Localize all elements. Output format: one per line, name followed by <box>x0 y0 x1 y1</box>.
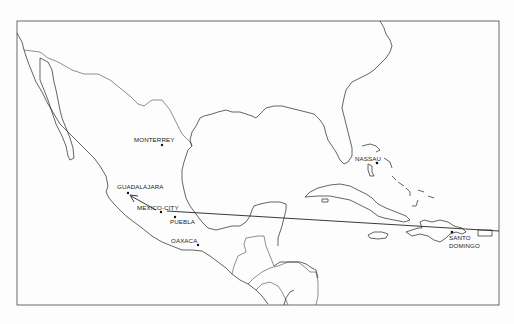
central-america-borders <box>232 236 318 305</box>
route-santo-domingo-mexico-city <box>167 211 499 231</box>
label-mexico-city: MEXICO-CITY <box>137 204 179 211</box>
map-frame <box>17 21 499 305</box>
bahamas-7 <box>428 196 434 198</box>
label-nassau: NASSAU <box>355 155 381 162</box>
label-puebla: PUEBLA <box>170 218 196 225</box>
label-guadalajara: GUADALAJARA <box>117 183 164 190</box>
city-markers <box>127 144 454 246</box>
label-monterrey: MONTERREY <box>134 136 174 143</box>
coastlines <box>17 21 392 305</box>
isle-of-youth <box>322 199 328 202</box>
dot-monterrey <box>161 144 163 146</box>
honduras-coast <box>274 262 318 278</box>
label-santo: SANTO <box>449 234 471 241</box>
gulf-coast-mexico <box>182 146 286 246</box>
gulf-coast-north <box>190 21 392 164</box>
dot-mexico-city <box>160 211 162 213</box>
dot-nassau <box>376 162 379 165</box>
city-labels: MONTERREY NASSAU GUADALAJARA MEXICO-CITY… <box>117 136 480 249</box>
label-oaxaca: OAXACA <box>171 237 198 244</box>
islands <box>305 144 492 242</box>
bahamas-3 <box>392 176 396 180</box>
bahamas-2 <box>384 158 392 168</box>
routes <box>130 195 499 231</box>
baja-peninsula <box>40 58 74 160</box>
south-america-corner <box>284 290 294 305</box>
dot-oaxaca <box>197 244 199 246</box>
bahamas-4 <box>398 182 404 186</box>
label-domingo: DOMINGO <box>449 242 480 249</box>
bahamas-6 <box>418 190 424 192</box>
bahamas-8 <box>412 200 418 206</box>
pacific-coast-mexico <box>17 33 268 304</box>
dot-guadalajara <box>127 192 129 194</box>
bahamas-andros <box>368 164 374 176</box>
map-canvas: MONTERREY NASSAU GUADALAJARA MEXICO-CITY… <box>0 0 514 324</box>
dot-santo-domingo <box>451 231 454 234</box>
bahamas-5 <box>406 188 410 196</box>
bahamas-1 <box>362 144 380 152</box>
cuba <box>305 184 410 222</box>
map-page: MONTERREY NASSAU GUADALAJARA MEXICO-CITY… <box>0 0 514 324</box>
jamaica <box>368 232 388 239</box>
